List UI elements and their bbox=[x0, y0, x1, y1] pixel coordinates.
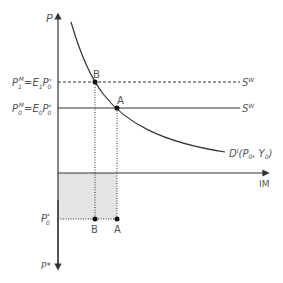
point-a-bottom bbox=[115, 217, 120, 222]
label-supply-prime: SW′ bbox=[242, 76, 256, 88]
svg-text:P1M=E1P*0: P1M=E1P*0 bbox=[12, 75, 52, 90]
axis-label-im: IM bbox=[259, 179, 269, 189]
label-supply: SW bbox=[242, 102, 255, 114]
svg-text:SW′: SW′ bbox=[242, 76, 256, 88]
point-b-bottom bbox=[93, 217, 98, 222]
point-a bbox=[115, 106, 120, 111]
demand-curve bbox=[71, 22, 225, 152]
label-point-a: A bbox=[117, 95, 124, 106]
label-point-b: B bbox=[93, 69, 100, 80]
svg-text:P0M=E0P*0: P0M=E0P*0 bbox=[12, 101, 52, 116]
svg-text:SW: SW bbox=[242, 102, 255, 114]
label-bottom-a: A bbox=[114, 224, 121, 235]
label-demand: DI(P0, Y0) bbox=[229, 147, 272, 160]
label-p0m: P0M=E0P*0 bbox=[12, 101, 52, 116]
label-p0star: P*0 bbox=[41, 212, 50, 226]
import-diagram: B A B A P IM P* P1M=E1P*0 P0M=E0P*0 P*0 … bbox=[0, 0, 283, 283]
point-b bbox=[93, 80, 98, 85]
label-bottom-b: B bbox=[91, 224, 98, 235]
svg-text:DI(P0, Y0): DI(P0, Y0) bbox=[229, 147, 272, 160]
axis-label-pstar: P* bbox=[41, 261, 51, 271]
svg-text:P*0: P*0 bbox=[41, 212, 50, 226]
label-p1m: P1M=E1P*0 bbox=[12, 75, 52, 90]
shaded-cost-area bbox=[58, 173, 117, 219]
axis-label-p: P bbox=[46, 12, 53, 25]
